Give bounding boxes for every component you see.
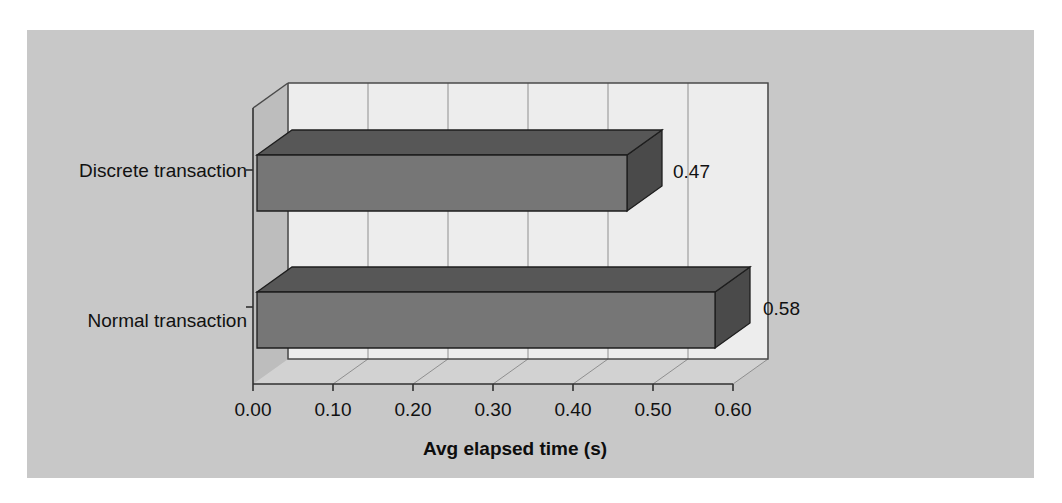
x-tick-label-3: 0.30 — [453, 400, 533, 419]
data-label-discrete-transaction: 0.47 — [673, 162, 710, 181]
x-axis-ticks — [253, 384, 733, 391]
x-tick-label-2: 0.20 — [373, 400, 453, 419]
x-axis-title: Avg elapsed time (s) — [423, 439, 607, 458]
bar-top-face — [257, 267, 750, 292]
x-tick-label-6: 0.60 — [693, 400, 773, 419]
data-label-normal-transaction: 0.58 — [763, 299, 800, 318]
bar-top-face — [257, 130, 662, 155]
category-label-discrete-transaction: Discrete transaction — [37, 161, 247, 180]
x-tick-label-4: 0.40 — [533, 400, 613, 419]
chart-image: Discrete transaction Normal transaction … — [0, 0, 1062, 503]
bar-front-face — [257, 155, 627, 211]
plot-area: Discrete transaction Normal transaction … — [27, 30, 1034, 478]
y-axis-ticks — [246, 170, 253, 307]
category-label-normal-transaction: Normal transaction — [37, 311, 247, 330]
bar-normal-transaction[interactable] — [257, 267, 750, 348]
bar-discrete-transaction[interactable] — [257, 130, 662, 211]
chart-panel: Discrete transaction Normal transaction … — [27, 30, 1034, 478]
bar-front-face — [257, 292, 715, 348]
x-tick-label-0: 0.00 — [213, 400, 293, 419]
x-tick-label-5: 0.50 — [613, 400, 693, 419]
x-tick-label-1: 0.10 — [293, 400, 373, 419]
